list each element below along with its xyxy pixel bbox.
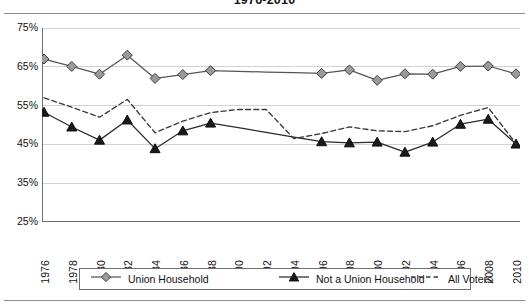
x-axis-tick-label: 1976 (39, 260, 51, 284)
legend-entry[interactable]: Not a Union Household (278, 269, 425, 289)
x-axis-label-group: 1976197819801982198419861988199019921994… (42, 226, 520, 266)
dashed-line-key-icon (410, 270, 442, 288)
data-point-marker (455, 61, 465, 71)
legend-entry[interactable]: All Voters (410, 269, 492, 289)
series-all-voters (44, 98, 516, 144)
legend-entry-label: Union Household (128, 273, 209, 285)
bottom-divider-rule (4, 300, 525, 301)
data-point-marker (67, 61, 77, 71)
data-point-marker (428, 137, 438, 146)
triangle-line-key-icon (278, 270, 310, 288)
data-point-marker (317, 68, 327, 78)
y-axis-label-group: 75%65%55%45%35%25% (0, 0, 38, 306)
data-point-marker (67, 122, 77, 131)
data-point-marker (428, 69, 438, 79)
data-point-marker (206, 118, 216, 127)
y-axis-tick-label: 35% (4, 176, 38, 188)
y-axis-tick-label: 65% (4, 60, 38, 72)
series-not-a-union-household (42, 107, 520, 156)
legend-entry-label: Not a Union Household (316, 273, 425, 285)
series-line (44, 112, 516, 152)
data-point-marker (178, 70, 188, 80)
x-axis-tick-label: 1978 (67, 260, 79, 284)
diamond-line-key-icon (90, 270, 122, 288)
y-axis-tick-label: 45% (4, 137, 38, 149)
data-point-marker (42, 107, 49, 116)
chart-plot-svg (42, 28, 520, 222)
legend-entry[interactable]: Union Household (90, 269, 209, 289)
x-axis-tick-label: 2010 (511, 260, 523, 284)
data-point-marker (95, 69, 105, 79)
data-point-marker (400, 69, 410, 79)
y-axis-tick-label: 25% (4, 215, 38, 227)
series-line (44, 55, 516, 80)
data-point-marker (122, 115, 132, 124)
top-divider-rule (4, 13, 525, 14)
tick-mark-group (42, 28, 516, 222)
plot-area (42, 28, 520, 222)
legend-entry-label: All Voters (448, 273, 492, 285)
data-point-marker (95, 135, 105, 144)
data-point-marker (483, 61, 493, 71)
chart-legend: Union HouseholdNot a Union HouseholdAll … (79, 268, 471, 290)
series-union-household (42, 50, 520, 85)
data-point-marker (372, 75, 382, 85)
data-point-marker (483, 114, 493, 123)
data-point-marker (42, 54, 49, 64)
chart-title: 1976-2010 (0, 0, 529, 7)
data-series-group (42, 50, 520, 156)
data-point-marker (400, 147, 410, 156)
legend-marker-sample (101, 272, 110, 281)
series-line (44, 98, 516, 144)
y-axis-tick-label: 55% (4, 99, 38, 111)
y-axis-tick-label: 75% (4, 21, 38, 33)
chart-figure: 1976-2010 75%65%55%45%35%25% 19761978198… (0, 0, 529, 306)
data-point-marker (511, 69, 520, 79)
